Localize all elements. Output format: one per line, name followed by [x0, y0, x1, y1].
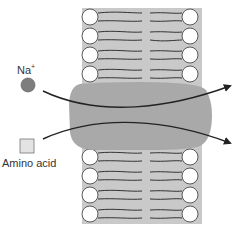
amino-acid-icon — [20, 139, 34, 153]
membrane-diagram — [0, 0, 235, 231]
sodium-ion-label: Na+ — [17, 63, 35, 76]
amino-acid-label: Amino acid — [2, 157, 56, 169]
carrier-protein — [69, 82, 212, 150]
sodium-ion-icon — [21, 78, 35, 92]
